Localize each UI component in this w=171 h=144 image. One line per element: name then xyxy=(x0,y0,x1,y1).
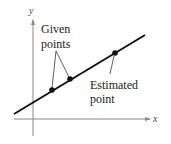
estimated-label-line1: Estimated xyxy=(90,78,138,92)
given-leader-1 xyxy=(52,51,56,88)
given-label-line1: Given xyxy=(41,22,70,36)
linear-extrapolation-diagram: x y Given points Estimated point xyxy=(0,0,171,144)
given-point-1 xyxy=(49,87,55,93)
given-leader-2 xyxy=(56,51,69,77)
given-label-line2: points xyxy=(41,37,71,51)
x-axis-label: x xyxy=(152,113,158,124)
estimated-point xyxy=(112,50,118,56)
given-point-2 xyxy=(67,76,73,82)
trend-line xyxy=(14,35,145,114)
estimated-leader xyxy=(110,56,114,74)
y-axis-label: y xyxy=(28,5,34,16)
estimated-label-line2: point xyxy=(90,92,115,106)
diagram-canvas: x y Given points Estimated point xyxy=(0,0,171,144)
